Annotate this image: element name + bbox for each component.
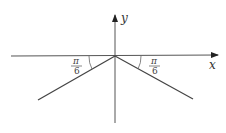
y-axis-label: y [120, 11, 128, 25]
left-angle-arc [89, 56, 92, 69]
svg-text:π: π [72, 56, 80, 66]
right-angle-label: π 6 [149, 56, 160, 76]
svg-text:π: π [150, 56, 158, 66]
svg-text:6: 6 [152, 66, 158, 76]
svg-text:6: 6 [74, 66, 80, 76]
right-angle-arc [138, 56, 141, 69]
x-axis-label: x [209, 58, 216, 72]
left-angle-label: π 6 [71, 56, 82, 76]
angle-diagram: y x π 6 π 6 [0, 0, 226, 133]
